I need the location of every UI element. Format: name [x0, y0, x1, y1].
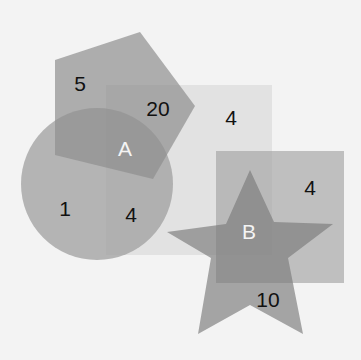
label-region-b: B	[242, 221, 256, 242]
label-pentagon-rect-overlap: 20	[146, 98, 169, 119]
label-circle-rect-overlap: 4	[125, 204, 137, 225]
label-right-rect-only: 4	[304, 177, 316, 198]
label-circle-only: 1	[59, 198, 71, 219]
label-big-rect-only: 4	[225, 107, 237, 128]
label-star-bottom: 10	[256, 289, 279, 310]
label-pentagon-only: 5	[74, 73, 86, 94]
label-region-a: A	[118, 138, 132, 159]
venn-diagram: 5 20 4 A 1 4 4 B 10	[0, 0, 361, 360]
